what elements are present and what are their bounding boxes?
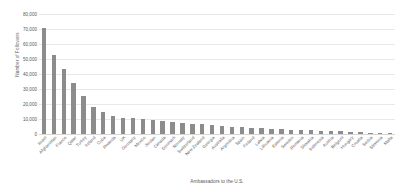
bars-layer [39,14,395,134]
bar[interactable] [220,126,224,134]
bar-slot [138,14,148,134]
bar-slot [286,14,296,134]
bar[interactable] [42,28,46,135]
bar-slot [108,14,118,134]
bar-slot [375,14,385,134]
bar-chart-figure: Number of Followers 010,00020,00030,0004… [0,0,402,196]
x-axis-tick-labels: IsraelAfghanistanFranceQatarTurkeyIrelan… [39,134,395,178]
bar[interactable] [91,107,95,134]
bar[interactable] [62,69,66,134]
x-axis-title: Ambassadors to the U.S. [39,179,395,184]
bar-slot [346,14,356,134]
bar-slot [197,14,207,134]
bar[interactable] [141,119,145,134]
bar-slot [39,14,49,134]
y-axis-tick-label: 70,000 [4,27,37,32]
y-axis-tick-label: 20,000 [4,102,37,107]
bar-slot [227,14,237,134]
y-axis-tick-label: 10,000 [4,117,37,122]
bar-slot [326,14,336,134]
bar-slot [296,14,306,134]
bar-slot [336,14,346,134]
bar-slot [316,14,326,134]
bar[interactable] [111,116,115,134]
bar-slot [79,14,89,134]
bar-slot [98,14,108,134]
bar-slot [49,14,59,134]
bar-slot [187,14,197,134]
bar[interactable] [52,55,56,134]
bar-slot [88,14,98,134]
y-axis-tick-label: 30,000 [4,87,37,92]
y-axis-tick-label: 50,000 [4,57,37,62]
bar[interactable] [180,123,184,134]
bar[interactable] [190,124,194,135]
x-label-slot: Malta [385,134,395,178]
bar-slot [266,14,276,134]
bar[interactable] [121,118,125,135]
bar[interactable] [230,127,234,135]
bar-slot [177,14,187,134]
bar-slot [365,14,375,134]
bar-slot [69,14,79,134]
bar[interactable] [210,125,214,134]
bar-slot [217,14,227,134]
x-axis-tick-label: Malta [383,135,394,146]
bar-slot [276,14,286,134]
bar-slot [207,14,217,134]
bar-slot [118,14,128,134]
bar[interactable] [170,122,174,134]
bar-slot [148,14,158,134]
bar[interactable] [131,118,135,134]
y-axis-tick-label: 40,000 [4,72,37,77]
bar-slot [59,14,69,134]
y-axis-tick-label: 0 [4,132,37,137]
bar[interactable] [200,124,204,134]
bar[interactable] [71,83,75,134]
bar[interactable] [240,127,244,134]
plot-area [39,14,395,134]
bar-slot [168,14,178,134]
bar[interactable] [101,112,105,134]
bar[interactable] [81,96,85,134]
y-axis-tick-labels: 010,00020,00030,00040,00050,00060,00070,… [4,14,37,134]
bar-slot [257,14,267,134]
y-axis-tick-label: 60,000 [4,42,37,47]
bar-slot [128,14,138,134]
bar-slot [306,14,316,134]
bar[interactable] [151,120,155,134]
bar-slot [158,14,168,134]
bar[interactable] [160,121,164,135]
bar-slot [385,14,395,134]
bar-slot [237,14,247,134]
x-label-slot: Rwanda [108,134,118,178]
y-axis-tick-label: 80,000 [4,12,37,17]
bar-slot [247,14,257,134]
bar-slot [356,14,366,134]
